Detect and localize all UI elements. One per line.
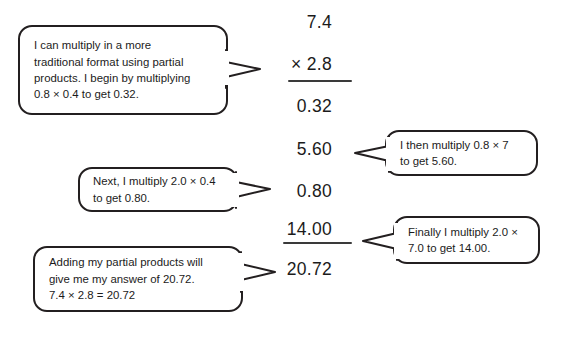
speech-bubble-intro: I can multiply in a more traditional for… <box>18 25 228 115</box>
speech-bubble-fourth-partial: Finally I multiply 2.0 × 7.0 to get 14.0… <box>393 216 540 264</box>
speech-bubble-third-partial: Next, I multiply 2.0 × 0.4 to get 0.80. <box>78 167 238 212</box>
bubble-second-line-1: I then multiply 0.8 × 7 <box>400 137 524 153</box>
bubble-sum-line-2: give me my answer of 20.72. <box>49 271 228 287</box>
bubble-fourth-line-1: Finally I multiply 2.0 × <box>408 224 526 240</box>
bubble-sum-line-3: 7.4 × 2.8 = 20.72 <box>49 287 228 303</box>
bubble-third-line-2: to get 0.80. <box>93 190 224 206</box>
speech-bubble-sum: Adding my partial products will give me … <box>33 246 243 312</box>
speech-bubble-third-partial-tail <box>232 170 276 210</box>
bubble-third-line-1: Next, I multiply 2.0 × 0.4 <box>93 173 224 189</box>
math-row-factor-1: 7.4 <box>222 12 332 32</box>
bubble-intro-line-4: 0.8 × 0.4 to get 0.32. <box>34 86 213 102</box>
multiplication-rule <box>288 80 352 82</box>
bubble-sum-line-1: Adding my partial products will <box>49 254 228 270</box>
speech-bubble-second-partial: I then multiply 0.8 × 7 to get 5.60. <box>385 130 538 176</box>
bubble-fourth-line-2: 7.0 to get 14.00. <box>408 240 526 256</box>
bubble-intro-line-2: traditional format using partial <box>34 54 213 70</box>
speech-bubble-second-partial-tail <box>351 134 393 174</box>
math-row-partial-product-4: 14.00 <box>222 219 332 239</box>
math-row-partial-product-1: 0.32 <box>222 96 332 116</box>
speech-bubble-fourth-partial-tail <box>359 220 401 262</box>
bubble-intro-line-1: I can multiply in a more <box>34 37 213 53</box>
speech-bubble-intro-tail <box>222 48 266 90</box>
speech-bubble-sum-tail <box>237 250 281 294</box>
bubble-intro-line-3: products. I begin by multiplying <box>34 70 213 86</box>
worked-example-canvas: I can multiply in a more traditional for… <box>0 0 568 342</box>
math-row-partial-product-2: 5.60 <box>222 139 332 159</box>
sum-rule <box>283 242 352 244</box>
bubble-second-line-2: to get 5.60. <box>400 153 524 169</box>
